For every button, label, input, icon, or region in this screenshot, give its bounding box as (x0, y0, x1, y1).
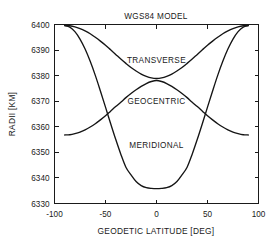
radii-vs-latitude-chart: WGS84 MODEL 6330634063506360637063806390… (0, 0, 279, 242)
x-tick-label: -100 (46, 210, 63, 219)
x-axis-label: GEODETIC LATITUDE [DEG] (98, 226, 215, 236)
curve-label-geocentric: GEOCENTRIC (127, 97, 185, 106)
y-tick-label: 6400 (31, 21, 50, 30)
x-tick-label: 50 (203, 210, 213, 219)
chart-figure: WGS84 MODEL 6330634063506360637063806390… (0, 0, 279, 242)
chart-title: WGS84 MODEL (124, 12, 188, 21)
x-tick-label: -50 (100, 210, 112, 219)
y-tick-label: 6390 (31, 46, 50, 55)
y-tick-label: 6330 (31, 200, 50, 209)
curve-label-meridional: MERIDIONAL (129, 141, 184, 150)
y-tick-label: 6360 (31, 123, 50, 132)
y-axis-label: RADII [KM] (7, 92, 17, 136)
x-tick-label: 100 (252, 210, 266, 219)
y-tick-label: 6370 (31, 97, 50, 106)
x-tick-label: 0 (154, 210, 159, 219)
curve-label-transverse: TRANSVERSE (127, 56, 186, 65)
y-tick-label: 6350 (31, 148, 50, 157)
y-tick-label: 6380 (31, 72, 50, 81)
y-tick-label: 6340 (31, 174, 50, 183)
